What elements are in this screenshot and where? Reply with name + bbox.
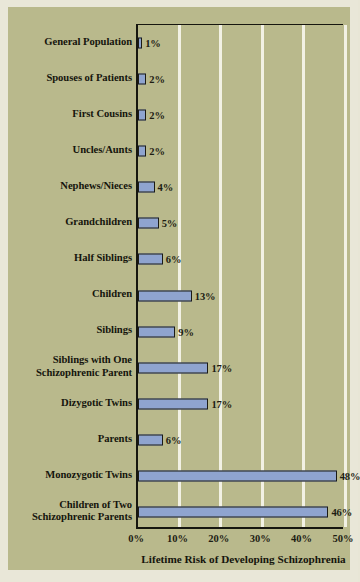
bar-row: 1% <box>138 25 343 61</box>
bar-row: 5% <box>138 205 343 241</box>
category-label: Uncles/Aunts <box>14 132 132 168</box>
bar <box>138 506 328 517</box>
category-label-line: Parents <box>98 433 132 445</box>
bar-value-label: 48% <box>340 470 360 481</box>
bar-value-label: 6% <box>166 254 182 265</box>
bar <box>138 290 192 301</box>
bar-row: 48% <box>138 458 343 494</box>
category-label-line: Spouses of Patients <box>46 72 132 84</box>
bar-row: 4% <box>138 169 343 205</box>
bar <box>138 74 146 85</box>
category-label: Nephews/Nieces <box>14 168 132 204</box>
gridline-50% <box>344 25 347 527</box>
category-label-line: Half Siblings <box>74 252 132 264</box>
category-label: Monozygotic Twins <box>14 457 132 493</box>
bar <box>138 326 175 337</box>
bar-value-label: 2% <box>149 146 165 157</box>
bar-value-label: 2% <box>149 110 165 121</box>
plot-area: 1%2%2%2%4%5%6%13%9%17%17%6%48%46% <box>136 24 343 529</box>
category-label-line: First Cousins <box>72 108 132 120</box>
x-tick-label: 30% <box>250 533 271 544</box>
category-label-line: Siblings with One <box>53 354 132 366</box>
category-label-line: Schizophrenic Parents <box>32 511 132 523</box>
category-label: Parents <box>14 421 132 457</box>
category-label: First Cousins <box>14 96 132 132</box>
x-axis-label: Lifetime Risk of Developing Schizophreni… <box>136 553 351 565</box>
bar-value-label: 17% <box>211 398 232 409</box>
bar <box>138 146 146 157</box>
bar-rows: 1%2%2%2%4%5%6%13%9%17%17%6%48%46% <box>138 25 343 527</box>
bar-row: 13% <box>138 278 343 314</box>
category-label-line: Siblings <box>96 324 132 336</box>
bar <box>138 254 163 265</box>
category-label: Grandchildren <box>14 204 132 240</box>
bar <box>138 434 163 445</box>
category-label-line: General Population <box>44 36 132 48</box>
category-label: Spouses of Patients <box>14 60 132 96</box>
bar-row: 2% <box>138 133 343 169</box>
bar-row: 9% <box>138 314 343 350</box>
bar-value-label: 1% <box>145 38 161 49</box>
bar-value-label: 17% <box>211 362 232 373</box>
chart-canvas: General PopulationSpouses of PatientsFir… <box>8 7 350 570</box>
category-label: General Population <box>14 24 132 60</box>
x-axis-ticks: 0%10%20%30%40%50% <box>136 533 343 547</box>
category-label: Children of TwoSchizophrenic Parents <box>14 493 132 529</box>
bar <box>138 470 337 481</box>
bar-value-label: 9% <box>178 326 194 337</box>
category-label-line: Monozygotic Twins <box>45 469 132 481</box>
category-label: Children <box>14 277 132 313</box>
x-tick-label: 20% <box>208 533 229 544</box>
bar-value-label: 5% <box>162 218 178 229</box>
bar-row: 17% <box>138 350 343 386</box>
bar-row: 6% <box>138 422 343 458</box>
category-label: Dizygotic Twins <box>14 385 132 421</box>
bar <box>138 110 146 121</box>
x-tick-label: 50% <box>333 533 354 544</box>
category-label-column: General PopulationSpouses of PatientsFir… <box>14 24 132 529</box>
bar-row: 2% <box>138 97 343 133</box>
x-tick-label: 40% <box>291 533 312 544</box>
bar <box>138 218 159 229</box>
x-tick-label: 10% <box>167 533 188 544</box>
x-tick-label: 0% <box>128 533 144 544</box>
category-label: Siblings <box>14 313 132 349</box>
bar-row: 17% <box>138 386 343 422</box>
bar <box>138 362 208 373</box>
bar-value-label: 13% <box>195 290 216 301</box>
bar-row: 46% <box>138 494 343 530</box>
bar <box>138 38 142 49</box>
bar-row: 6% <box>138 241 343 277</box>
category-label-line: Nephews/Nieces <box>60 180 132 192</box>
bar-value-label: 4% <box>158 182 174 193</box>
bar-value-label: 6% <box>166 434 182 445</box>
category-label: Siblings with OneSchizophrenic Parent <box>14 349 132 385</box>
category-label-line: Dizygotic Twins <box>61 397 132 409</box>
bar <box>138 182 155 193</box>
category-label: Half Siblings <box>14 240 132 276</box>
bar-row: 2% <box>138 61 343 97</box>
category-label-line: Grandchildren <box>65 216 132 228</box>
bar <box>138 398 208 409</box>
category-label-line: Schizophrenic Parent <box>36 367 132 379</box>
category-label-line: Children of Two <box>59 499 132 511</box>
bar-value-label: 2% <box>149 74 165 85</box>
category-label-line: Children <box>92 288 132 300</box>
category-label-line: Uncles/Aunts <box>73 144 132 156</box>
bar-value-label: 46% <box>331 506 352 517</box>
